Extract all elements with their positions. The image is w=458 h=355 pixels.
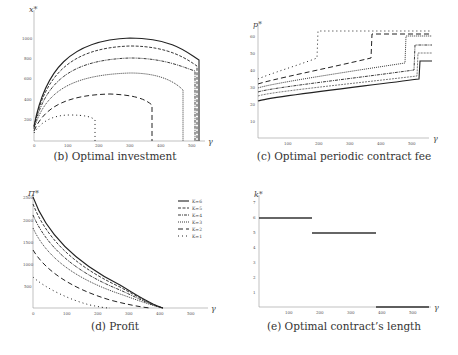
x-axis-label: γ: [208, 137, 213, 146]
series-lines: [258, 31, 432, 101]
svg-text:4: 4: [253, 245, 256, 250]
caption-b: (b) Optimal investment: [50, 150, 180, 162]
svg-text:K=6: K=6: [192, 199, 202, 204]
svg-text:100: 100: [64, 143, 72, 148]
svg-text:2000: 2000: [23, 218, 34, 223]
svg-text:500: 500: [24, 284, 32, 289]
svg-text:300: 300: [126, 143, 134, 148]
y-ticks: 102030405060: [250, 34, 256, 124]
x-axis-label: γ: [433, 134, 438, 143]
svg-text:30: 30: [250, 85, 256, 90]
svg-text:100: 100: [284, 141, 292, 146]
panel-contract-length: 1234567 100200300400500 k* γ (e) Optimal…: [229, 180, 458, 355]
axes: [33, 194, 208, 308]
axes: [259, 195, 431, 307]
y-axis-label: Π*: [27, 189, 39, 198]
panel-profit: 5001000150020002500 0100200300400500 Π* …: [0, 180, 229, 355]
svg-text:6: 6: [253, 215, 256, 220]
y-ticks: 2004006008001000: [22, 36, 33, 122]
y-axis-label: p*: [253, 20, 262, 29]
series-lines: [33, 197, 163, 308]
svg-text:K=2: K=2: [192, 227, 202, 232]
y-ticks: 1234567: [253, 200, 256, 295]
svg-text:7: 7: [253, 200, 256, 205]
svg-text:3: 3: [253, 260, 256, 265]
x-ticks: 100200300400500: [285, 310, 417, 315]
svg-text:K=3: K=3: [192, 220, 202, 225]
x-ticks: 0100200300400500: [33, 143, 196, 148]
svg-text:400: 400: [24, 97, 32, 102]
svg-text:500: 500: [188, 143, 196, 148]
panel-contract-fee: 102030405060 100200300400500 p* γ (c) Op…: [229, 0, 458, 180]
panel-optimal-investment: 2004006008001000 0100200300400500 x* γ (…: [0, 0, 229, 180]
svg-text:600: 600: [24, 76, 32, 81]
svg-text:400: 400: [377, 141, 385, 146]
svg-text:200: 200: [94, 311, 102, 316]
svg-text:5: 5: [253, 230, 256, 235]
svg-text:2: 2: [253, 275, 256, 280]
svg-text:60: 60: [250, 34, 256, 39]
x-ticks: 0100200300400500: [32, 311, 195, 316]
x-axis-label: γ: [211, 304, 216, 313]
axes: [34, 10, 205, 141]
svg-text:500: 500: [408, 141, 416, 146]
svg-text:1000: 1000: [23, 262, 34, 267]
y-axis-label: k*: [254, 190, 263, 199]
x-axis-label: γ: [434, 303, 439, 312]
y-ticks: 5001000150020002500: [23, 195, 34, 289]
caption-d: (d) Profit: [70, 320, 160, 332]
svg-text:1500: 1500: [23, 240, 34, 245]
svg-text:0: 0: [32, 311, 35, 316]
svg-text:40: 40: [250, 68, 256, 73]
svg-text:500: 500: [187, 311, 195, 316]
svg-text:20: 20: [250, 102, 256, 107]
svg-text:400: 400: [157, 143, 165, 148]
svg-text:K=1: K=1: [192, 234, 202, 239]
svg-text:300: 300: [347, 310, 355, 315]
svg-text:50: 50: [250, 51, 256, 56]
svg-text:400: 400: [156, 311, 164, 316]
svg-text:800: 800: [24, 56, 32, 61]
series-lines: [34, 38, 199, 141]
svg-text:300: 300: [125, 311, 133, 316]
svg-text:1: 1: [253, 290, 256, 295]
svg-text:200: 200: [24, 117, 32, 122]
caption-c: (c) Optimal periodic contract fee: [249, 150, 439, 162]
y-axis-label: x*: [29, 5, 38, 14]
caption-e: (e) Optimal contract’s length: [259, 320, 429, 332]
svg-text:100: 100: [285, 310, 293, 315]
svg-text:K=5: K=5: [192, 206, 202, 211]
x-ticks: 100200300400500: [284, 141, 416, 146]
legend: K=6 K=5 K=4 K=3 K=2 K=1: [178, 199, 202, 239]
svg-text:200: 200: [316, 310, 324, 315]
svg-text:200: 200: [315, 141, 323, 146]
svg-text:100: 100: [63, 311, 71, 316]
svg-text:K=4: K=4: [192, 213, 202, 218]
svg-text:10: 10: [250, 119, 256, 124]
svg-text:0: 0: [33, 143, 36, 148]
svg-text:300: 300: [346, 141, 354, 146]
series-lines: [259, 218, 429, 307]
svg-text:400: 400: [378, 310, 386, 315]
svg-text:200: 200: [95, 143, 103, 148]
svg-text:500: 500: [409, 310, 417, 315]
svg-text:1000: 1000: [22, 36, 33, 41]
